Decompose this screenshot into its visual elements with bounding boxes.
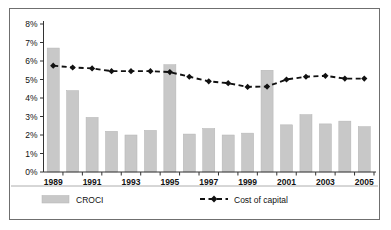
line-series-cost-of-capital bbox=[50, 63, 367, 90]
legend-label-croci: CROCI bbox=[76, 195, 103, 205]
croci-cost-of-capital-chart: 0%1%2%3%4%5%6%7%8%1989199119931995199719… bbox=[0, 0, 391, 230]
x-tick-label-2005: 2005 bbox=[355, 177, 374, 187]
bar-1990 bbox=[67, 91, 79, 172]
cost-of-capital-marker-1993 bbox=[128, 68, 134, 74]
x-tick-label-1999: 1999 bbox=[238, 177, 257, 187]
chart-screenshot: 0%1%2%3%4%5%6%7%8%1989199119931995199719… bbox=[0, 0, 391, 230]
bar-1992 bbox=[106, 131, 118, 172]
cost-of-capital-marker-1997 bbox=[206, 78, 212, 84]
cost-of-capital-marker-1999 bbox=[245, 84, 251, 90]
y-tick-label-6%: 6% bbox=[25, 56, 38, 66]
cost-of-capital-marker-1991 bbox=[89, 65, 95, 71]
bar-2002 bbox=[300, 115, 312, 172]
cost-of-capital-marker-1992 bbox=[108, 68, 114, 74]
legend-marker-cost-of-capital bbox=[211, 196, 218, 203]
bar-2004 bbox=[339, 121, 351, 172]
chart-plot-area: 0%1%2%3%4%5%6%7%8%1989199119931995199719… bbox=[0, 0, 391, 230]
cost-of-capital-marker-2002 bbox=[303, 74, 309, 80]
cost-of-capital-marker-2004 bbox=[342, 75, 348, 81]
bar-1998 bbox=[222, 135, 234, 172]
bar-1997 bbox=[203, 129, 215, 172]
bar-1994 bbox=[144, 130, 156, 172]
x-tick-label-1991: 1991 bbox=[83, 177, 102, 187]
x-tick-label-1997: 1997 bbox=[199, 177, 218, 187]
y-tick-label-4%: 4% bbox=[25, 93, 38, 103]
cost-of-capital-marker-2001 bbox=[283, 76, 289, 82]
y-tick-label-3%: 3% bbox=[25, 112, 38, 122]
cost-of-capital-marker-1998 bbox=[225, 80, 231, 86]
bar-1996 bbox=[183, 134, 195, 172]
bar-1995 bbox=[164, 65, 176, 172]
y-tick-label-8%: 8% bbox=[25, 19, 38, 29]
chart-legend: CROCICost of capital bbox=[11, 186, 378, 205]
cost-of-capital-marker-1994 bbox=[147, 68, 153, 74]
x-tick-label-2003: 2003 bbox=[316, 177, 335, 187]
bar-series-croci bbox=[47, 48, 370, 172]
cost-of-capital-marker-2005 bbox=[361, 75, 367, 81]
x-tick-label-1993: 1993 bbox=[122, 177, 141, 187]
y-tick-label-1%: 1% bbox=[25, 149, 38, 159]
y-tick-label-0%: 0% bbox=[25, 167, 38, 177]
bar-1991 bbox=[86, 117, 98, 172]
bar-1993 bbox=[125, 135, 137, 172]
y-tick-label-7%: 7% bbox=[25, 38, 38, 48]
bar-2005 bbox=[358, 127, 370, 172]
cost-of-capital-marker-1996 bbox=[186, 74, 192, 80]
cost-of-capital-marker-1990 bbox=[70, 64, 76, 70]
legend-swatch-croci bbox=[42, 196, 69, 204]
cost-of-capital-marker-2003 bbox=[322, 73, 328, 79]
legend-label-cost-of-capital: Cost of capital bbox=[234, 195, 288, 205]
x-tick-label-2001: 2001 bbox=[277, 177, 296, 187]
x-tick-label-1989: 1989 bbox=[44, 177, 63, 187]
bar-1999 bbox=[242, 133, 254, 172]
bar-2001 bbox=[280, 125, 292, 172]
bar-2003 bbox=[319, 124, 331, 172]
y-tick-label-5%: 5% bbox=[25, 75, 38, 85]
x-tick-label-1995: 1995 bbox=[160, 177, 179, 187]
y-tick-label-2%: 2% bbox=[25, 130, 38, 140]
